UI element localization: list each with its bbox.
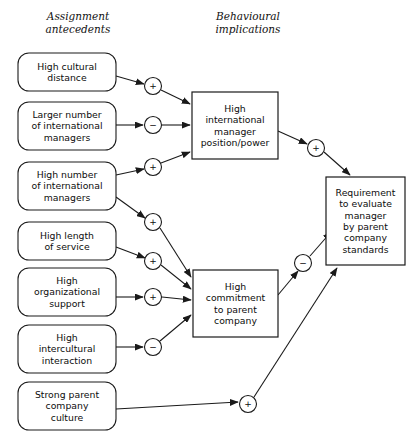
sign-label: −	[299, 258, 307, 268]
sign-node-sign-intercultural-interaction-to-commitment: −	[145, 339, 162, 356]
sign-node-sign-position-to-requirement: +	[308, 140, 325, 157]
antecedent-box-high-length-of-service[interactable]: High lengthof service	[18, 222, 116, 260]
sign-node-sign-culture-to-requirement: +	[240, 396, 257, 413]
outcome-node-high-international-manager-position-power[interactable]: Highinternationalmanagerposition/power	[192, 92, 278, 159]
sign-label: +	[244, 399, 252, 409]
sign-node-sign-high-number-to-commitment: +	[145, 214, 162, 231]
edge-high-number-to-sign-pos	[116, 169, 144, 175]
sign-label: +	[149, 217, 157, 227]
column-heading-text: Behaviouralimplications	[215, 10, 281, 35]
causal-influence-diagram: AssignmentantecedentsBehaviouralimplicat…	[0, 0, 418, 448]
edge-commitment-to-sign	[278, 271, 298, 295]
edge-sign-to-commitment-1	[160, 228, 191, 277]
sign-label: +	[149, 256, 157, 266]
edge-sign-to-commitment-3	[162, 297, 191, 300]
antecedent-box-high-cultural-distance[interactable]: High culturaldistance	[18, 53, 116, 91]
box-label: High lengthof service	[40, 230, 94, 252]
sign-node-sign-organizational-support-to-commitment: +	[145, 289, 162, 306]
sign-node-sign-commitment-to-requirement: −	[295, 255, 312, 272]
edge-sign-to-position-1	[161, 90, 190, 104]
column-heading-antecedents: Assignmentantecedents	[46, 10, 111, 35]
edge-position-to-sign	[278, 131, 307, 144]
sign-label: +	[149, 292, 157, 302]
sign-node-sign-larger-number-to-position: −	[145, 117, 162, 134]
edge-high-number-to-sign-commit	[116, 197, 145, 218]
antecedent-boxes-layer: High culturaldistanceLarger numberof int…	[18, 53, 116, 430]
edge-cultural-distance-to-sign	[116, 76, 144, 84]
node-label: Requirementto evaluatemanagerby parentco…	[336, 187, 396, 255]
edge-sign-to-position-3	[161, 152, 190, 163]
sign-node-sign-cultural-distance-to-position: +	[145, 78, 162, 95]
sign-label: +	[149, 162, 157, 172]
column-heading-implications: Behaviouralimplications	[215, 10, 281, 35]
outcome-nodes-layer: Highinternationalmanagerposition/powerHi…	[192, 92, 405, 337]
outcome-node-high-commitment-to-parent-company[interactable]: Highcommitmentto parentcompany	[193, 270, 278, 337]
antecedent-box-strong-parent-company-culture[interactable]: Strong parentcompanyculture	[18, 382, 116, 430]
sign-label: −	[149, 342, 157, 352]
outcome-node-requirement-to-evaluate-manager[interactable]: Requirementto evaluatemanagerby parentco…	[326, 177, 405, 265]
edge-culture-to-sign	[116, 402, 238, 409]
sign-node-sign-high-number-to-position: +	[145, 159, 162, 176]
sign-label: −	[149, 120, 157, 130]
edge-sign-to-requirement-1	[324, 152, 350, 175]
antecedent-box-larger-number-international-managers[interactable]: Larger numberof internationalmanagers	[18, 102, 116, 150]
column-headings: AssignmentantecedentsBehaviouralimplicat…	[46, 10, 282, 35]
sign-node-sign-length-of-service-to-commitment: +	[145, 253, 162, 270]
antecedent-box-high-intercultural-interaction[interactable]: Highinterculturalinteraction	[18, 325, 116, 373]
antecedent-box-high-organizational-support[interactable]: Highorganizationalsupport	[18, 268, 116, 316]
sign-label: +	[312, 143, 320, 153]
sign-label: +	[149, 81, 157, 91]
antecedent-box-high-number-international-managers[interactable]: High numberof internationalmanagers	[18, 162, 116, 210]
edge-sign-to-commitment-2	[161, 265, 191, 289]
edge-length-of-service-to-sign	[116, 247, 145, 258]
column-heading-text: Assignmentantecedents	[46, 10, 111, 35]
edge-sign-to-commitment-4	[160, 315, 191, 341]
diagram-page: AssignmentantecedentsBehaviouralimplicat…	[0, 0, 418, 448]
